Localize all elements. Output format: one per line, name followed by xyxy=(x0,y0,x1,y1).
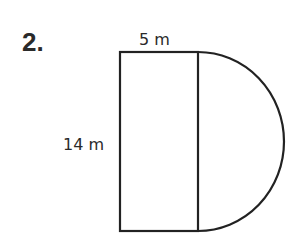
figure-canvas: 2. 5 m 14 m xyxy=(0,0,302,235)
width-label: 5 m xyxy=(139,30,170,49)
semicircle xyxy=(198,52,284,231)
rectangle xyxy=(120,52,198,231)
problem-number: 2. xyxy=(22,27,44,57)
height-label: 14 m xyxy=(63,135,104,154)
composite-shape xyxy=(120,52,284,231)
